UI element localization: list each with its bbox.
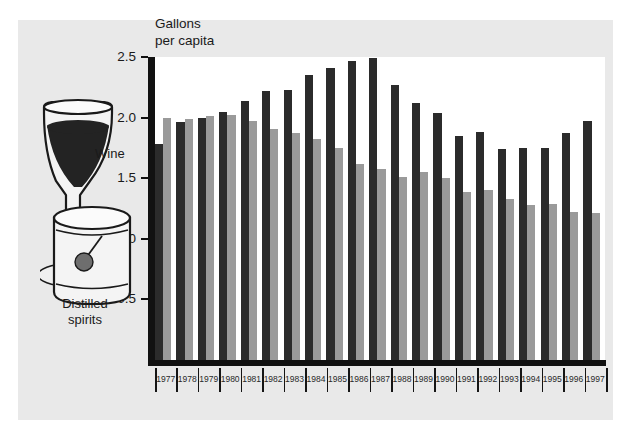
bar-group (391, 57, 412, 360)
bar-group (326, 57, 347, 360)
x-tick-label: 1980 (219, 366, 240, 392)
x-tick-separator (241, 368, 243, 392)
bar-distilled-spirits (541, 148, 549, 360)
x-tick-label: 1983 (284, 366, 305, 392)
x-tick-label: 1988 (391, 366, 412, 392)
bar-distilled-spirits (455, 136, 463, 360)
bar-wine (506, 199, 514, 360)
bar-wine (399, 177, 407, 360)
wine-label: Wine (95, 146, 125, 161)
x-tick-separator (284, 368, 286, 392)
x-tick-label: 1977 (155, 366, 176, 392)
x-tick-label: 1986 (348, 366, 369, 392)
x-tick-separator (477, 368, 479, 392)
bar-distilled-spirits (391, 85, 399, 360)
x-tick-separator (391, 368, 393, 392)
beverage-illustration (30, 95, 150, 325)
bar-wine (227, 115, 235, 360)
bar-distilled-spirits (284, 90, 292, 360)
bar-wine (527, 205, 535, 360)
bar-wine (356, 164, 364, 360)
x-tick-separator (434, 368, 436, 392)
x-tick-label: 1981 (241, 366, 262, 392)
x-tick-label: 1984 (305, 366, 326, 392)
x-tick-separator (542, 368, 544, 392)
bar-wine (592, 213, 600, 360)
bar-wine (570, 212, 578, 360)
bar-group (198, 57, 219, 360)
bar-wine (206, 116, 214, 360)
bar-group (562, 57, 583, 360)
bar-wine (270, 129, 278, 360)
bar-wine (377, 169, 385, 360)
bar-group (219, 57, 240, 360)
bar-group (369, 57, 390, 360)
bar-distilled-spirits (476, 132, 484, 360)
x-tick-separator (520, 368, 522, 392)
bar-group (498, 57, 519, 360)
x-tick-separator (262, 368, 264, 392)
bar-distilled-spirits (305, 75, 313, 360)
bar-group (583, 57, 604, 360)
bar-distilled-spirits (519, 148, 527, 360)
x-tick-separator (348, 368, 350, 392)
bar-group (519, 57, 540, 360)
bar-group (412, 57, 433, 360)
x-tick-separator (370, 368, 372, 392)
x-tick-separator (305, 368, 307, 392)
bar-group (433, 57, 454, 360)
y-axis-title: Gallons per capita (155, 16, 214, 50)
x-tick-separator (456, 368, 458, 392)
distilled-spirits-label-line-1: Distilled (45, 296, 125, 312)
bar-wine (549, 204, 557, 360)
x-tick-label: 1997 (585, 366, 606, 392)
distilled-spirits-label: Distilled spirits (45, 296, 125, 327)
bar-distilled-spirits (348, 61, 356, 360)
bar-wine (163, 118, 171, 360)
x-tick-separator (198, 368, 200, 392)
bar-distilled-spirits (198, 118, 206, 360)
bar-wine (335, 148, 343, 360)
bar-series-container (155, 57, 605, 360)
bar-distilled-spirits (583, 121, 591, 360)
chart-root: Gallons per capita 0.51.01.52.02.5 19771… (0, 0, 635, 440)
bar-wine (484, 190, 492, 360)
bar-group (305, 57, 326, 360)
x-tick-label: 1993 (499, 366, 520, 392)
bar-group (284, 57, 305, 360)
bar-group (348, 57, 369, 360)
x-tick-label: 1995 (542, 366, 563, 392)
bar-wine (442, 178, 450, 360)
x-tick-label: 1994 (520, 366, 541, 392)
x-tick-label: 1987 (370, 366, 391, 392)
x-tick-separator (413, 368, 415, 392)
bar-group (476, 57, 497, 360)
bar-distilled-spirits (262, 91, 270, 360)
bar-distilled-spirits (219, 112, 227, 360)
x-tick-separator (499, 368, 501, 392)
x-tick-label: 1982 (262, 366, 283, 392)
bar-distilled-spirits (433, 113, 441, 360)
x-tick-label: 1991 (456, 366, 477, 392)
x-tick-label: 1979 (198, 366, 219, 392)
distilled-spirits-label-line-2: spirits (45, 312, 125, 328)
bar-distilled-spirits (412, 103, 420, 360)
x-tick-label: 1978 (176, 366, 197, 392)
y-tick-label: 2.5 (90, 50, 136, 64)
bar-wine (185, 119, 193, 360)
x-tick-label: 1990 (434, 366, 455, 392)
x-tick-label: 1996 (563, 366, 584, 392)
bar-group (262, 57, 283, 360)
x-axis-year-labels: 1977197819791980198119821983198419851986… (148, 366, 606, 392)
bar-group (455, 57, 476, 360)
bar-distilled-spirits (369, 58, 377, 360)
bar-wine (292, 133, 300, 360)
bar-distilled-spirits (562, 133, 570, 360)
x-tick-label: 1985 (327, 366, 348, 392)
x-tick-separator (327, 368, 329, 392)
bar-distilled-spirits (326, 68, 334, 360)
bar-group (176, 57, 197, 360)
bar-distilled-spirits (241, 101, 249, 360)
bar-wine (313, 139, 321, 360)
bar-distilled-spirits (176, 122, 184, 360)
